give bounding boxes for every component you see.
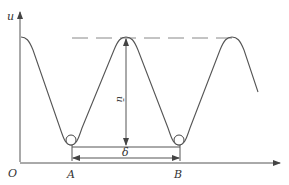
origin-label: O xyxy=(8,167,17,180)
spacing-label: δ xyxy=(122,146,129,159)
y-axis-label: u xyxy=(7,10,14,23)
periodic-potential-curve xyxy=(21,37,258,145)
potential-diagram: u O A B δ ū xyxy=(0,0,289,185)
particle-b xyxy=(174,135,184,145)
point-b-label: B xyxy=(173,168,182,181)
amplitude-label: ū xyxy=(115,96,126,102)
particle-a xyxy=(66,135,76,145)
point-a-label: A xyxy=(66,168,75,181)
